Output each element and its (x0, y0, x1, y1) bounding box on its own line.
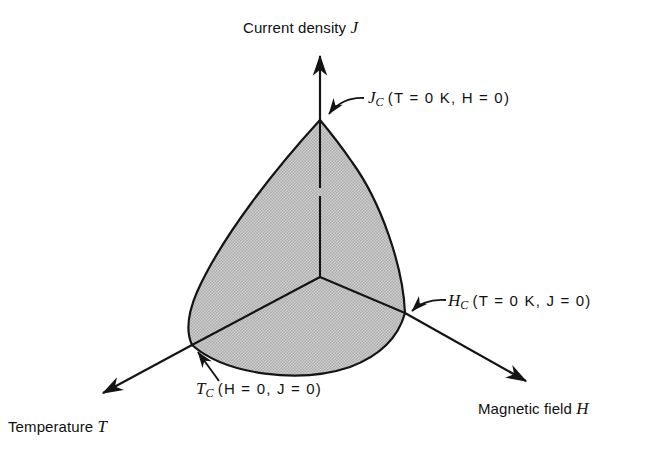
hc-leader-arrow (412, 300, 446, 311)
j-axis-label: Current density J (243, 18, 358, 38)
h-axis-symbol: H (576, 399, 588, 418)
jc-point-label: JC (T = 0 K, H = 0) (368, 88, 510, 110)
h-axis-label: Magnetic field H (478, 399, 589, 419)
t-axis-symbol: T (98, 417, 108, 436)
t-axis-line (103, 345, 192, 393)
tc-point-label: TC (H = 0, J = 0) (196, 379, 322, 401)
jc-leader-arrow (329, 98, 364, 114)
j-axis-symbol: J (351, 18, 359, 37)
superconductor-critical-surface-figure (0, 0, 650, 459)
h-axis-line (405, 313, 526, 381)
t-axis-label: Temperature T (8, 417, 107, 437)
hc-point-label: HC (T = 0 K, J = 0) (448, 291, 592, 313)
